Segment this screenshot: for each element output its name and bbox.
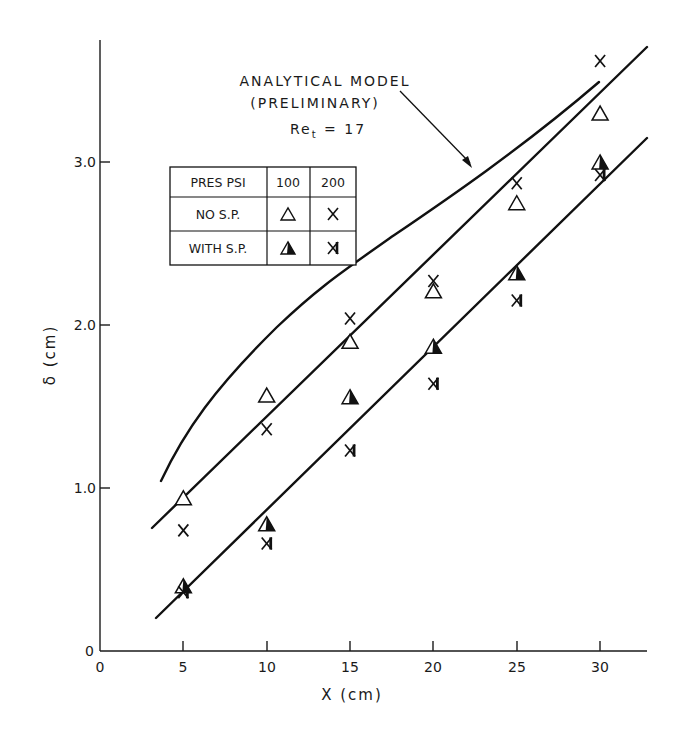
half-filled-triangle-data-point	[259, 517, 275, 531]
x-bar-data-point	[428, 378, 438, 390]
half-filled-triangle-data-point	[509, 266, 525, 280]
y-tick-label: 3.0	[74, 154, 96, 170]
half-filled-triangle-data-point	[342, 390, 358, 404]
open-triangle-data-point	[259, 388, 275, 402]
axes	[100, 40, 647, 651]
legend-row-with-sp: WITH S.P.	[189, 241, 248, 256]
x-tick-labels: 0 5 10 15 20 25 30	[96, 659, 609, 675]
y-tick-labels: 0 1.0 2.0 3.0	[74, 154, 96, 659]
x-tick-label: 20	[424, 659, 442, 675]
legend-header-100: 100	[276, 175, 300, 190]
x-data-point	[345, 312, 355, 324]
x-bar-data-point	[262, 537, 272, 549]
x-data-point	[262, 423, 272, 435]
annotation-line2: (PRELIMINARY)	[250, 95, 380, 111]
x-bar-data-point	[512, 295, 522, 307]
x-bar-data-point	[345, 445, 355, 457]
arrowhead-icon	[462, 156, 472, 168]
y-tick-label: 0	[85, 643, 94, 659]
annotation: ANALYTICAL MODEL (PRELIMINARY) Ret = 17	[240, 73, 411, 140]
annotation-line1: ANALYTICAL MODEL	[240, 73, 411, 89]
x-tick-label: 5	[179, 659, 188, 675]
x-tick-label: 15	[341, 659, 359, 675]
y-tick-label: 1.0	[74, 480, 96, 496]
x-bar-data-point	[595, 169, 605, 181]
x-tick-label: 0	[96, 659, 105, 675]
x-tick-label: 10	[258, 659, 276, 675]
y-axis-label: δ (cm)	[41, 325, 59, 386]
annotation-line3: Ret = 17	[290, 121, 366, 140]
annotation-arrow	[400, 91, 472, 168]
x-axis-label: X (cm)	[321, 686, 383, 704]
model-lines	[152, 47, 647, 618]
open-triangle-data-point	[425, 284, 441, 298]
chart: 0 5 10 15 20 25 30 0 1.0 2.0 3.0 X (cm) …	[0, 0, 691, 740]
half-filled-triangle-data-point	[592, 155, 608, 169]
open-triangle-data-point	[509, 196, 525, 210]
legend-row-no-sp: NO S.P.	[196, 207, 241, 222]
analytical-model-curve	[161, 82, 599, 481]
x-tick-label: 30	[591, 659, 609, 675]
x-data-point	[178, 524, 188, 536]
no-sp-fit-line	[152, 47, 647, 528]
x-tick-label: 25	[508, 659, 526, 675]
y-tick-label: 2.0	[74, 317, 96, 333]
legend-header-pressure: PRES PSI	[190, 175, 245, 190]
x-data-point	[512, 177, 522, 189]
legend-table: PRES PSI 100 200 NO S.P. WITH S.P.	[170, 167, 356, 265]
open-triangle-data-point	[592, 106, 608, 120]
data-markers	[175, 55, 608, 598]
x-data-point	[595, 55, 605, 67]
legend-header-200: 200	[321, 175, 345, 190]
